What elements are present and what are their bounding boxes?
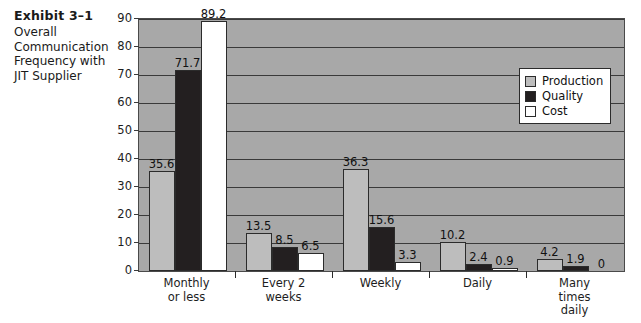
legend-label-cost: Cost	[542, 104, 568, 118]
bar-value-label: 0	[598, 257, 605, 271]
bar-production-2	[343, 169, 369, 271]
bar-value-label: 0.9	[495, 254, 513, 268]
x-axis-separator-tick	[429, 271, 430, 278]
y-axis-tick-label: 60	[104, 95, 132, 109]
bar-value-label: 10.2	[440, 228, 466, 242]
y-axis-tick-label: 40	[104, 151, 132, 165]
bar-value-label: 15.6	[369, 213, 395, 227]
bar-quality-4	[563, 266, 589, 271]
bar-value-label: 1.9	[566, 252, 584, 266]
y-axis-tick	[134, 242, 139, 243]
x-axis-category-label: Monthly or less	[163, 277, 209, 304]
bar-cost-1	[298, 253, 324, 271]
chart-legend: Production Quality Cost	[519, 68, 611, 124]
bar-value-label: 13.5	[246, 219, 272, 233]
bar-value-label: 2.4	[469, 250, 487, 264]
bar-production-3	[440, 242, 466, 271]
legend-swatch-icon-quality	[525, 91, 536, 102]
bar-cost-2	[395, 262, 421, 271]
legend-swatch-icon-cost	[525, 106, 536, 117]
y-axis-tick-label: 70	[104, 67, 132, 81]
x-axis-category-label: Weekly	[360, 277, 402, 291]
y-axis-tick-label: 50	[104, 123, 132, 137]
bar-value-label: 6.5	[301, 239, 319, 253]
y-axis-tick-label: 90	[104, 11, 132, 25]
y-axis-tick-label: 0	[104, 263, 132, 277]
y-axis-tick	[134, 102, 139, 103]
y-axis-tick	[134, 270, 139, 271]
bar-value-label: 4.2	[540, 245, 558, 259]
y-axis-tick	[134, 186, 139, 187]
y-axis-tick-label: 10	[104, 235, 132, 249]
y-axis-tick-label: 20	[104, 207, 132, 221]
bar-value-label: 36.3	[343, 155, 369, 169]
bar-production-0	[149, 171, 175, 271]
bar-quality-0	[175, 70, 201, 271]
legend-label-production: Production	[542, 74, 603, 88]
y-axis-tick	[134, 18, 139, 19]
bar-production-4	[537, 259, 563, 271]
chart-figure: Exhibit 3–1 Overall Communication Freque…	[0, 0, 641, 323]
x-axis-separator-tick	[235, 271, 236, 278]
y-axis-tick	[134, 74, 139, 75]
y-axis-tick	[134, 158, 139, 159]
bar-production-1	[246, 233, 272, 271]
legend-swatch-icon-production	[525, 76, 536, 87]
y-axis-tick-label: 30	[104, 179, 132, 193]
bar-value-label: 8.5	[275, 233, 293, 247]
y-axis-tick	[134, 46, 139, 47]
bar-cost-0	[201, 21, 227, 271]
bar-value-label: 35.6	[149, 157, 175, 171]
y-axis-tick	[134, 214, 139, 215]
y-axis-tick-label: 80	[104, 39, 132, 53]
bar-quality-2	[369, 227, 395, 271]
bar-quality-1	[272, 247, 298, 271]
bar-value-label: 71.7	[175, 56, 201, 70]
legend-item-quality: Quality	[525, 89, 603, 103]
y-axis-tick	[134, 130, 139, 131]
x-axis-category-label: Many times daily	[559, 277, 591, 318]
x-axis-separator-tick	[332, 271, 333, 278]
legend-label-quality: Quality	[542, 89, 583, 103]
x-axis-category-label: Every 2 weeks	[262, 277, 306, 304]
x-axis-separator-tick	[526, 271, 527, 278]
bar-value-label: 3.3	[398, 248, 416, 262]
plot-area: 35.671.789.213.58.56.536.315.63.310.22.4…	[138, 18, 625, 272]
bar-cost-3	[492, 268, 518, 271]
bar-quality-3	[466, 264, 492, 271]
legend-item-cost: Cost	[525, 104, 603, 118]
legend-item-production: Production	[525, 74, 603, 88]
y-axis: 0102030405060708090	[104, 18, 132, 272]
bar-value-label: 89.2	[201, 7, 227, 21]
x-axis-category-label: Daily	[463, 277, 492, 291]
